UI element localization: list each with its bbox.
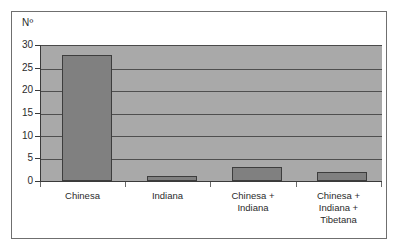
y-tick-label-25: 25 <box>11 63 33 73</box>
x-tick-mark-5 <box>381 182 382 187</box>
x-axis-baseline <box>40 181 382 182</box>
y-tick-mark-30 <box>35 45 40 46</box>
chart-figure: Nº 30 25 20 15 10 5 0 Chinesa Indiana Ch… <box>0 0 399 251</box>
y-axis-spine <box>40 45 41 182</box>
y-tick-mark-25 <box>35 68 40 69</box>
y-tick-mark-10 <box>35 136 40 137</box>
x-tick-mark-2 <box>125 182 126 187</box>
y-tick-label-5: 5 <box>11 153 33 163</box>
y-tick-label-15: 15 <box>11 108 33 118</box>
x-tick-mark-4 <box>296 182 297 187</box>
y-tick-mark-20 <box>35 90 40 91</box>
bar-chinesa-indiana[interactable] <box>232 167 282 181</box>
y-tick-mark-15 <box>35 113 40 114</box>
x-category-label-chinesa-indiana-tibetana: Chinesa + Indiana + Tibetana <box>296 190 381 226</box>
y-tick-label-0: 0 <box>11 176 33 186</box>
y-tick-label-30: 30 <box>11 40 33 50</box>
x-category-label-indiana: Indiana <box>125 190 210 202</box>
plot-area <box>40 45 382 181</box>
x-category-label-chinesa: Chinesa <box>40 190 125 202</box>
bar-chinesa[interactable] <box>62 55 112 181</box>
y-tick-label-20: 20 <box>11 85 33 95</box>
x-tick-mark-1 <box>40 182 41 187</box>
y-tick-mark-5 <box>35 158 40 159</box>
bar-chinesa-indiana-tibetana[interactable] <box>317 172 367 181</box>
y-tick-labels: 30 25 20 15 10 5 0 <box>9 0 33 251</box>
x-tick-mark-3 <box>210 182 211 187</box>
y-tick-label-10: 10 <box>11 131 33 141</box>
x-category-label-chinesa-indiana: Chinesa + Indiana <box>210 190 296 214</box>
